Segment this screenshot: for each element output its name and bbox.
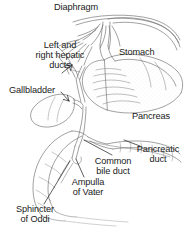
label-common-bile-duct-line2: bile duct bbox=[90, 166, 136, 176]
label-pancreatic-duct-line1: Pancreatic bbox=[131, 144, 185, 154]
label-stomach: Stomach bbox=[119, 47, 155, 57]
label-sphincter-line1: Sphincter bbox=[11, 204, 59, 214]
label-hepatic-ducts-line2: right hepatic bbox=[18, 50, 102, 60]
ampulla-of-vater-leader bbox=[76, 159, 84, 177]
label-common-bile-duct-line1: Common bbox=[90, 156, 136, 166]
label-ampulla-line2: of Vater bbox=[65, 187, 111, 197]
anatomical-figure: Diaphragm Left and right hepatic ducts S… bbox=[0, 0, 186, 237]
label-ampulla-line1: Ampulla bbox=[65, 177, 111, 187]
label-pancreatic-duct-line2: duct bbox=[131, 154, 185, 164]
label-hepatic-ducts-line3: ducts bbox=[18, 60, 102, 70]
label-sphincter-line2: of Oddi bbox=[11, 214, 59, 224]
label-gallbladder: Gallbladder bbox=[9, 85, 55, 95]
label-hepatic-ducts-line1: Left and bbox=[18, 40, 102, 50]
label-pancreas: Pancreas bbox=[132, 111, 170, 121]
common-bile-duct-structure bbox=[75, 106, 86, 147]
common-bile-duct-leader bbox=[84, 140, 112, 155]
esophagus-structure bbox=[100, 22, 115, 61]
label-diaphragm: Diaphragm bbox=[45, 2, 107, 12]
